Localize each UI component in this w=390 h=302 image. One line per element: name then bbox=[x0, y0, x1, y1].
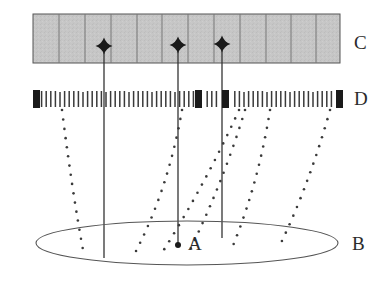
ray-dot bbox=[226, 134, 229, 137]
ray-dot bbox=[239, 225, 242, 228]
ray-dot bbox=[192, 200, 195, 203]
ray-dot bbox=[229, 154, 232, 157]
ray-dot bbox=[234, 117, 237, 120]
ray-dot bbox=[303, 188, 306, 191]
dotted-ray-group bbox=[61, 109, 332, 253]
ray-dot bbox=[232, 243, 235, 246]
diagram-canvas bbox=[0, 0, 390, 302]
ray-dot bbox=[236, 234, 239, 237]
ray-dot bbox=[212, 197, 215, 200]
ray-dot bbox=[321, 136, 324, 139]
ray-dot bbox=[288, 223, 291, 226]
dark-block bbox=[33, 90, 40, 108]
ray-dot bbox=[248, 199, 251, 202]
ellipse-plane bbox=[36, 221, 338, 265]
ray-dot bbox=[266, 127, 269, 130]
tick-row-group bbox=[33, 90, 343, 108]
ray-dot bbox=[66, 146, 69, 149]
ray-dot bbox=[218, 150, 221, 153]
ray-dot bbox=[262, 145, 265, 148]
ray-dot bbox=[147, 225, 150, 228]
ray-dot bbox=[196, 191, 199, 194]
ray-dot bbox=[306, 180, 309, 183]
ray-dot bbox=[182, 216, 185, 219]
ray-dot bbox=[72, 192, 75, 195]
ray-dot bbox=[245, 207, 248, 210]
ray-dot bbox=[326, 118, 329, 121]
ray-dot bbox=[168, 164, 171, 167]
ray-dot bbox=[219, 180, 222, 183]
gray-bar bbox=[33, 14, 340, 63]
ray-dot bbox=[238, 109, 241, 112]
ray-dot bbox=[175, 136, 178, 139]
ray-dot bbox=[78, 228, 81, 231]
ray-dot bbox=[63, 128, 66, 131]
ray-dot bbox=[68, 164, 71, 167]
ellipse-group bbox=[36, 221, 338, 265]
ray-dot bbox=[81, 247, 84, 250]
ray-dot bbox=[163, 181, 166, 184]
ray-dot bbox=[222, 142, 225, 145]
solid-ray-group bbox=[104, 44, 222, 258]
ray-dot bbox=[67, 155, 70, 158]
ray-dot bbox=[258, 163, 261, 166]
ray-dot bbox=[318, 145, 321, 148]
ray-dot bbox=[154, 207, 157, 210]
ray-dot bbox=[255, 172, 258, 175]
ray-dot bbox=[285, 231, 288, 234]
ray-dot bbox=[135, 250, 138, 253]
label-a: A bbox=[188, 234, 202, 253]
ray-dot bbox=[260, 154, 263, 157]
label-c: C bbox=[354, 33, 367, 52]
label-b: B bbox=[352, 234, 365, 253]
ray-dot bbox=[173, 146, 176, 149]
dark-block bbox=[195, 90, 202, 108]
ray-dot bbox=[244, 109, 247, 112]
ray-dot bbox=[253, 181, 256, 184]
ray-dot bbox=[171, 155, 174, 158]
ray-dot bbox=[299, 197, 302, 200]
diagram-figure: C D B A bbox=[0, 0, 390, 302]
ray-dot bbox=[315, 154, 318, 157]
ray-dot bbox=[281, 240, 284, 243]
ray-dot bbox=[312, 162, 315, 165]
ray-dot bbox=[143, 233, 146, 236]
ray-dot bbox=[69, 174, 72, 177]
label-d: D bbox=[354, 89, 368, 108]
ray-dot bbox=[251, 190, 254, 193]
ray-dot bbox=[309, 171, 312, 174]
ray-dot bbox=[173, 232, 176, 235]
ray-dot bbox=[179, 118, 182, 121]
ray-dot bbox=[269, 109, 272, 112]
ray-dot bbox=[77, 219, 80, 222]
ray-dot bbox=[323, 127, 326, 130]
ray-dot bbox=[166, 172, 169, 175]
dark-block bbox=[336, 90, 343, 108]
ray-dot bbox=[205, 213, 208, 216]
ray-dot bbox=[187, 208, 190, 211]
ray-dot bbox=[292, 214, 295, 217]
ray-dot bbox=[157, 199, 160, 202]
gray-bar-group bbox=[33, 14, 340, 63]
ray-dot bbox=[71, 183, 74, 186]
ray-dot bbox=[74, 201, 77, 204]
ray-dot bbox=[241, 118, 244, 121]
ray-dot bbox=[177, 127, 180, 130]
ray-dot bbox=[163, 248, 166, 251]
ray-dot bbox=[160, 190, 163, 193]
point-a-dot bbox=[175, 242, 181, 248]
ray-dot bbox=[80, 237, 83, 240]
ray-dot bbox=[201, 183, 204, 186]
ray-dot bbox=[329, 109, 332, 112]
ray-dot bbox=[235, 136, 238, 139]
ray-dot bbox=[214, 159, 217, 162]
dark-block bbox=[222, 90, 229, 108]
ray-dot bbox=[242, 216, 245, 219]
ray-dot bbox=[296, 206, 299, 209]
ray-dot bbox=[226, 162, 229, 165]
ray-dot bbox=[62, 118, 65, 121]
ray-dot bbox=[181, 109, 184, 112]
ray-dot bbox=[209, 167, 212, 170]
ray-dot bbox=[139, 242, 142, 245]
ray-dot bbox=[178, 224, 181, 227]
